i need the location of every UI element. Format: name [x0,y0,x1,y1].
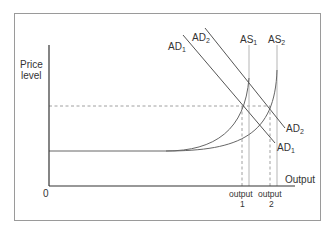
ad-as-diagram: Price level Output 0 AD1 AD2 AS1 AS2 AD2… [0,0,335,230]
y-axis-label-line2: level [21,70,42,81]
output2-label-line1: output [258,189,282,199]
ad2-bottom-label: AD2 [286,123,304,135]
as1-curve [166,78,249,151]
as2-curve [166,70,277,151]
as1-label: AS1 [240,34,257,46]
as2-label: AS2 [268,34,285,46]
output2-label-line2: 2 [269,199,274,209]
ad1-top-label: AD1 [168,41,186,53]
origin-label: 0 [43,188,49,199]
output1-label-line2: 1 [240,199,245,209]
ad1-bottom-label: AD1 [277,142,295,154]
y-axis-label-line1: Price [20,59,43,70]
ad2-top-label: AD2 [192,32,210,44]
output1-label-line1: output [229,189,253,199]
x-axis-label: Output [285,174,315,185]
ad1-line [183,35,275,143]
